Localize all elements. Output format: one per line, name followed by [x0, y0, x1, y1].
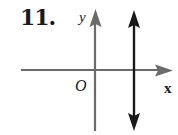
x-axis — [21, 65, 173, 77]
x-axis-label: x — [164, 80, 172, 96]
origin-label: O — [75, 77, 87, 94]
coordinate-graph: y O x — [0, 0, 178, 135]
y-axis-label: y — [77, 9, 86, 25]
